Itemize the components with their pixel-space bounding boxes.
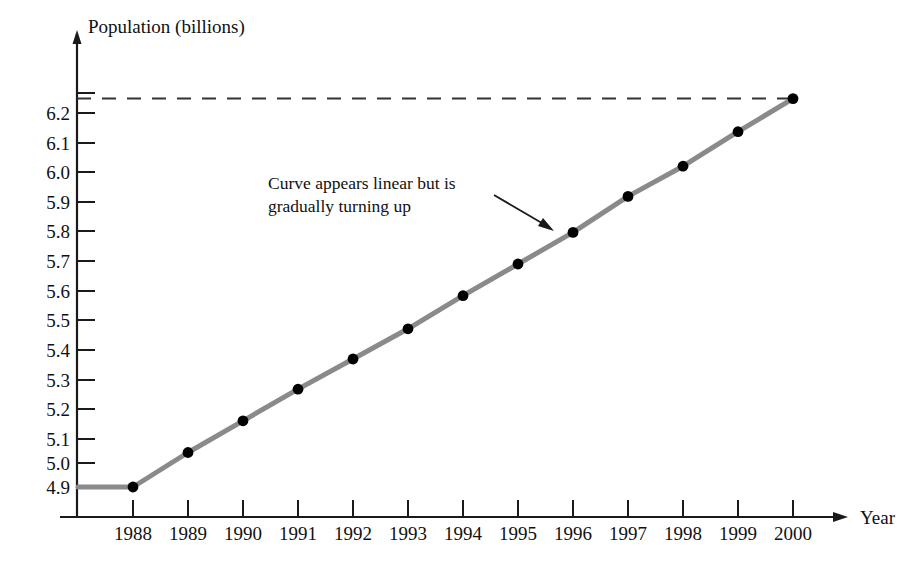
y-axis	[73, 30, 82, 517]
x-tick-label: 1992	[334, 523, 372, 544]
x-tick-label: 1996	[554, 523, 592, 544]
data-point	[678, 161, 689, 172]
x-tick-label: 1988	[114, 523, 152, 544]
y-tick-label: 5.1	[46, 429, 70, 450]
chart-svg: Population (billions) Year 6.2 6.1 6.0 5…	[0, 0, 918, 565]
data-point	[623, 191, 634, 202]
x-axis-arrowhead	[833, 512, 848, 522]
data-point	[513, 259, 524, 270]
y-axis-title: Population (billions)	[88, 16, 245, 38]
x-tick-label: 1994	[444, 523, 483, 544]
y-tick-label: 5.5	[46, 310, 70, 331]
x-tick-label: 2000	[774, 523, 812, 544]
series-dot-group	[128, 93, 799, 492]
x-tick-label: 1997	[609, 523, 647, 544]
x-axis-title: Year	[860, 507, 896, 528]
data-point	[733, 126, 744, 137]
data-point	[403, 323, 414, 334]
x-tick-group: 1988 1989 1990 1991 1992 1993 1994 1995 …	[114, 500, 812, 544]
data-point	[293, 384, 304, 395]
y-tick-label: 5.6	[46, 281, 70, 302]
data-point	[458, 290, 469, 301]
y-tick-label: 6.1	[46, 133, 70, 154]
y-axis-arrowhead	[73, 30, 82, 44]
x-tick-label: 1990	[224, 523, 262, 544]
y-tick-label: 5.3	[46, 370, 70, 391]
data-point	[788, 93, 799, 104]
y-tick-label: 5.4	[46, 340, 70, 361]
x-tick-label: 1995	[499, 523, 537, 544]
y-tick-label: 5.2	[46, 399, 70, 420]
x-tick-label: 1991	[279, 523, 317, 544]
data-point	[128, 482, 139, 493]
y-tick-label: 5.7	[46, 251, 70, 272]
data-point	[568, 227, 579, 238]
y-tick-label: 5.9	[46, 192, 70, 213]
data-point	[238, 415, 249, 426]
data-point	[183, 447, 194, 458]
annotation-arrowhead	[538, 218, 554, 231]
y-tick-label: 6.0	[46, 162, 70, 183]
x-tick-label: 1998	[664, 523, 702, 544]
annotation-line-2: gradually turning up	[268, 196, 411, 216]
annotation-line-1: Curve appears linear but is	[268, 173, 456, 193]
x-axis	[60, 512, 848, 522]
population-growth-chart: Population (billions) Year 6.2 6.1 6.0 5…	[0, 0, 918, 565]
x-tick-label: 1999	[719, 523, 757, 544]
y-tick-label: 6.2	[46, 103, 70, 124]
y-tick-label: 5.8	[46, 221, 70, 242]
y-tick-label: 4.9	[46, 477, 70, 498]
annotation-arrow	[494, 195, 554, 231]
y-tick-label: 5.0	[46, 453, 70, 474]
data-point	[348, 354, 359, 365]
annotation-arrow-shaft	[494, 195, 547, 226]
x-tick-label: 1989	[169, 523, 207, 544]
y-tick-group: 6.2 6.1 6.0 5.9 5.8 5.7 5.6 5.5 5.4 5.3 …	[46, 93, 95, 498]
x-tick-label: 1993	[389, 523, 427, 544]
